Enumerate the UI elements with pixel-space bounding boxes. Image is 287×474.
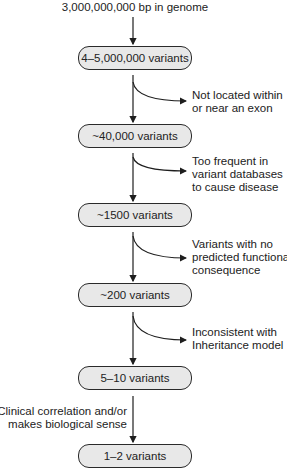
branch-arrow-icon bbox=[133, 82, 186, 101]
branch-arrow-icon bbox=[133, 316, 186, 340]
stage-box-2: ~40,000 variants bbox=[78, 124, 192, 148]
branch-arrow-icon bbox=[133, 157, 186, 171]
filter-label-frequency: Too frequent in variant databases to cau… bbox=[192, 155, 283, 194]
filter-label-clinical: Clinical correlation and/or makes biolog… bbox=[0, 405, 127, 431]
filter-label-exon: Not located within or near an exon bbox=[192, 89, 283, 115]
genome-size-label: 3,000,000,000 bp in genome bbox=[0, 1, 270, 14]
filter-label-inheritance: Inconsistent with Inheritance model bbox=[192, 326, 283, 352]
filter-label-function: Variants with no predicted functional co… bbox=[192, 238, 287, 277]
stage-box-1: 4–5,000,000 variants bbox=[78, 46, 192, 70]
stage-box-5: 5–10 variants bbox=[78, 366, 192, 390]
branch-arrow-icon bbox=[133, 236, 186, 258]
variant-filtering-flowchart: 3,000,000,000 bp in genome 4–5,000,000 v… bbox=[0, 0, 287, 474]
stage-box-6: 1–2 variants bbox=[78, 444, 192, 468]
stage-box-3: ~1500 variants bbox=[78, 203, 192, 227]
stage-box-4: ~200 variants bbox=[78, 283, 192, 307]
connector-arrows bbox=[0, 0, 287, 474]
